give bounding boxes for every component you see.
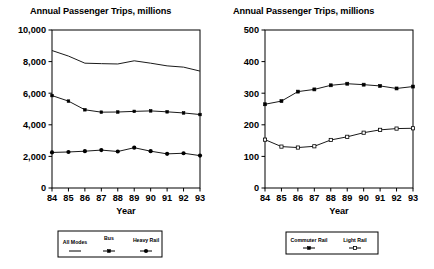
right-chart-panel: Annual Passenger Trips, millions 0100200… <box>217 0 434 269</box>
data-point-light-rail-89 <box>346 135 349 138</box>
data-point-bus-89 <box>133 110 136 113</box>
plot-frame <box>265 30 413 188</box>
y-axis-tick-label: 100 <box>244 152 259 162</box>
y-axis-tick-label: 0 <box>254 183 259 193</box>
data-point-light-rail-88 <box>329 138 332 141</box>
data-point-bus-92 <box>182 112 185 115</box>
y-axis-tick-label: 200 <box>244 120 259 130</box>
data-point-commuter-rail-84 <box>264 103 267 106</box>
x-axis-tick-label: 85 <box>63 193 73 203</box>
x-axis-tick-label: 88 <box>326 193 336 203</box>
data-point-light-rail-92 <box>395 127 398 130</box>
x-axis-tick-label: 87 <box>309 193 319 203</box>
series-line-heavy-rail <box>52 148 200 156</box>
x-axis-tick-label: 84 <box>260 193 271 203</box>
data-point-commuter-rail-87 <box>313 88 316 91</box>
legend-marker-0 <box>308 247 311 250</box>
data-point-heavy-rail-91 <box>165 152 169 156</box>
y-axis-tick-label: 500 <box>244 25 259 35</box>
data-point-heavy-rail-85 <box>66 150 70 154</box>
data-point-light-rail-90 <box>362 131 365 134</box>
legend-marker-1 <box>108 250 111 253</box>
legend-label-bus: Bus <box>104 235 114 241</box>
series-line-all-modes <box>52 51 200 72</box>
data-point-commuter-rail-86 <box>296 90 299 93</box>
x-axis-tick-label: 86 <box>293 193 303 203</box>
y-axis-tick-label: 300 <box>244 89 259 99</box>
data-point-light-rail-87 <box>313 145 316 148</box>
x-axis-title: Year <box>329 206 349 216</box>
y-axis-tick-label: 4,000 <box>23 120 46 130</box>
data-point-bus-90 <box>149 110 152 113</box>
x-axis-tick-label: 84 <box>47 193 58 203</box>
x-axis-tick-label: 92 <box>178 193 188 203</box>
x-axis-tick-label: 93 <box>195 193 205 203</box>
right-chart-plot: 010020030040050084858687888990919293Year… <box>217 0 434 269</box>
data-point-heavy-rail-92 <box>181 151 185 155</box>
data-point-heavy-rail-86 <box>83 149 87 153</box>
x-axis-tick-label: 93 <box>408 193 418 203</box>
data-point-heavy-rail-87 <box>99 148 103 152</box>
legend-box <box>286 232 378 254</box>
plot-frame <box>52 30 200 188</box>
x-axis-tick-label: 88 <box>113 193 123 203</box>
data-point-heavy-rail-89 <box>132 146 136 150</box>
data-point-commuter-rail-93 <box>412 85 415 88</box>
data-point-bus-85 <box>67 100 70 103</box>
data-point-commuter-rail-88 <box>329 84 332 87</box>
y-axis-tick-label: 8,000 <box>23 57 46 67</box>
data-point-light-rail-85 <box>280 145 283 148</box>
data-point-light-rail-84 <box>263 138 266 141</box>
data-point-light-rail-91 <box>379 128 382 131</box>
legend-marker-1 <box>353 246 356 249</box>
data-point-commuter-rail-91 <box>379 84 382 87</box>
data-point-bus-93 <box>199 113 202 116</box>
legend-marker-2 <box>144 249 148 253</box>
x-axis-tick-label: 92 <box>391 193 401 203</box>
legend-label-all-modes: All Modes <box>63 239 88 245</box>
data-point-commuter-rail-85 <box>280 100 283 103</box>
data-point-heavy-rail-90 <box>149 149 153 153</box>
y-axis-tick-label: 400 <box>244 57 259 67</box>
data-point-commuter-rail-92 <box>395 87 398 90</box>
data-point-bus-91 <box>166 111 169 114</box>
left-chart-plot: 02,0004,0006,0008,00010,0008485868788899… <box>0 0 217 269</box>
series-line-commuter-rail <box>265 84 413 105</box>
data-point-bus-86 <box>84 108 87 111</box>
left-chart-panel: Annual Passenger Trips, millions 02,0004… <box>0 0 217 269</box>
data-point-heavy-rail-84 <box>50 150 54 154</box>
series-line-light-rail <box>265 128 413 147</box>
data-point-bus-84 <box>51 94 54 97</box>
data-point-light-rail-93 <box>411 127 414 130</box>
y-axis-tick-label: 0 <box>41 183 46 193</box>
x-axis-tick-label: 90 <box>146 193 156 203</box>
x-axis-tick-label: 90 <box>359 193 369 203</box>
x-axis-tick-label: 85 <box>276 193 286 203</box>
x-axis-tick-label: 91 <box>375 193 385 203</box>
x-axis-tick-label: 89 <box>129 193 139 203</box>
data-point-bus-88 <box>116 111 119 114</box>
x-axis-title: Year <box>116 206 136 216</box>
legend-label-heavy-rail: Heavy Rail <box>133 237 160 243</box>
y-axis-tick-label: 10,000 <box>18 25 46 35</box>
x-axis-tick-label: 89 <box>342 193 352 203</box>
data-point-commuter-rail-89 <box>346 82 349 85</box>
data-point-bus-87 <box>100 111 103 114</box>
data-point-heavy-rail-88 <box>116 149 120 153</box>
x-axis-tick-label: 87 <box>96 193 106 203</box>
y-axis-tick-label: 6,000 <box>23 89 46 99</box>
data-point-commuter-rail-90 <box>362 83 365 86</box>
x-axis-tick-label: 91 <box>162 193 172 203</box>
legend-label-light-rail: Light Rail <box>343 237 367 243</box>
y-axis-tick-label: 2,000 <box>23 152 46 162</box>
series-line-bus <box>52 96 200 115</box>
legend-label-commuter-rail: Commuter Rail <box>291 237 328 243</box>
figure-container: Annual Passenger Trips, millions 02,0004… <box>0 0 434 269</box>
data-point-heavy-rail-93 <box>198 154 202 158</box>
x-axis-tick-label: 86 <box>80 193 90 203</box>
data-point-light-rail-86 <box>296 146 299 149</box>
